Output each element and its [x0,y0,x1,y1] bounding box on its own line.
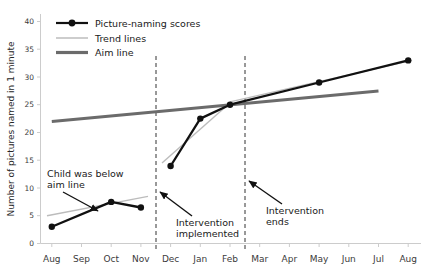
annotation-child-below-aim-line-line2: aim line [47,179,85,190]
data-point-aug2 [405,57,411,63]
x-tick-label-aug2: Aug [399,254,417,264]
data-point-dec [167,163,173,169]
x-tick-label-may: May [310,254,329,264]
annotation-intervention-ends-line2: ends [266,216,289,227]
y-tick-label-35: 35 [24,45,34,54]
data-point-nov [138,204,144,210]
x-tick-label-jan: Jan [192,254,207,264]
annotation-intervention-implemented-line1: Intervention [176,217,234,228]
x-tick-label-sep: Sep [73,254,90,264]
data-point-feb [227,102,233,108]
data-point-aug1 [49,224,55,230]
data-point-oct [108,199,114,205]
y-tick-label-30: 30 [24,73,34,82]
x-tick-label-feb: Feb [222,254,238,264]
y-tick-label-25: 25 [24,100,34,109]
data-point-jan [197,115,203,121]
legend-label-aim-line: Aim line [95,47,134,58]
y-tick-label-5: 5 [29,211,34,220]
x-tick-label-aug1: Aug [43,254,61,264]
x-tick-label-dec: Dec [162,254,179,264]
y-tick-label-15: 15 [24,156,34,165]
x-tick-label-oct: Oct [103,254,119,264]
annotation-child-below-aim-line-line1: Child was below [47,168,124,179]
x-tick-label-apr: Apr [282,254,298,264]
y-tick-label-10: 10 [24,184,34,193]
y-tick-label-0: 0 [29,239,34,248]
x-tick-label-jul: Jul [372,254,384,264]
y-axis-ticks [37,22,41,244]
x-tick-label-nov: Nov [132,254,150,264]
annotation-intervention-ends-line1: Intervention [266,205,324,216]
data-point-may [316,79,322,85]
chart-figure: 40 35 30 25 20 15 10 5 0 Number of pictu… [0,0,428,278]
legend-label-picture-naming-scores: Picture-naming scores [95,18,200,29]
x-tick-label-jun: Jun [341,254,356,264]
x-tick-label-mar: Mar [251,254,268,264]
y-axis-title: Number of pictures named in 1 minute [6,41,16,216]
x-axis-ticks [52,244,408,248]
annotation-intervention-implemented-line2: implemented [176,228,239,239]
picture-naming-progress-chart: 40 35 30 25 20 15 10 5 0 Number of pictu… [0,0,428,278]
y-tick-label-40: 40 [24,17,34,26]
y-tick-label-20: 20 [24,128,34,137]
legend-label-trend-lines: Trend lines [94,33,146,44]
